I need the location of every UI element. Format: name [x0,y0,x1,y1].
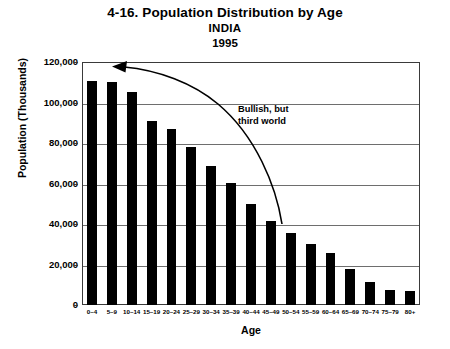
x-axis-tick-label: 65–69 [340,308,360,316]
bar [127,92,137,305]
y-axis-tick-label: 40,000 [8,219,78,229]
y-axis-tick-label: 120,000 [8,57,78,67]
chart-subtitle-year: 1995 [0,36,450,51]
y-axis-ticks: 120,000100,00080,00060,00040,00020,0000 [0,62,78,305]
bar [87,81,97,305]
y-axis-tick-label: 80,000 [8,138,78,148]
bar [266,221,276,305]
bar [226,183,236,306]
annotation-text: Bullish, but third world [238,104,289,127]
x-axis-tick-label: 5–9 [102,308,122,316]
x-axis-tick-label: 10–14 [122,308,142,316]
bar [405,291,415,305]
chart-title: 4-16. Population Distribution by Age [0,4,450,21]
bar [365,282,375,305]
y-axis-tick-label: 100,000 [8,98,78,108]
x-axis-tick-label: 0–4 [82,308,102,316]
y-axis-tick-mark [74,265,78,266]
bar [286,233,296,305]
y-axis-tick-label: 20,000 [8,260,78,270]
x-axis-tick-label: 15–19 [142,308,162,316]
bar [306,244,316,305]
bar [246,204,256,305]
bar [385,290,395,305]
y-axis-tick-mark [74,103,78,104]
x-axis-tick-label: 80+ [400,308,420,316]
x-axis-title: Age [82,324,420,336]
x-axis-tick-label: 40–44 [241,308,261,316]
x-axis-tick-label: 25–29 [181,308,201,316]
bar [186,147,196,305]
x-axis-tick-label: 30–34 [201,308,221,316]
y-axis-tick-mark [74,305,78,306]
x-axis-tick-label: 45–49 [261,308,281,316]
bar [345,269,355,305]
x-axis-tick-label: 20–24 [162,308,182,316]
y-axis-tick-label: 60,000 [8,179,78,189]
y-axis-tick-mark [74,62,78,63]
x-axis-tick-label: 50–54 [281,308,301,316]
x-axis-tick-label: 35–39 [221,308,241,316]
bar [206,166,216,305]
chart-subtitle-country: INDIA [0,21,450,36]
population-distribution-chart: 4-16. Population Distribution by Age IND… [0,0,450,349]
chart-title-block: 4-16. Population Distribution by Age IND… [0,4,450,51]
x-axis-tick-label: 75–79 [380,308,400,316]
bar [326,253,336,305]
x-axis-ticks: 0–45–910–1415–1920–2425–2930–3435–3940–4… [82,308,420,322]
bar [167,129,177,305]
annotation-line-1: Bullish, but [238,104,289,116]
bar [147,121,157,305]
bar [107,82,117,305]
x-axis-tick-label: 60–64 [321,308,341,316]
y-axis-tick-mark [74,143,78,144]
x-axis-tick-label: 55–59 [301,308,321,316]
annotation-line-2: third world [238,116,289,128]
y-axis-tick-label: 0 [8,300,78,310]
y-axis-tick-mark [74,184,78,185]
x-axis-tick-label: 70–74 [360,308,380,316]
y-axis-tick-mark [74,224,78,225]
bars-container [82,62,420,305]
